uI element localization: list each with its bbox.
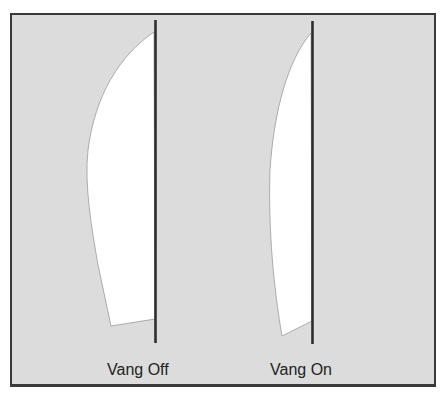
sail-diagram [0, 0, 446, 395]
sail-vang-on [270, 33, 312, 336]
label-vang-off: Vang Off [107, 361, 169, 379]
sail-vang-off [87, 32, 155, 326]
label-vang-on: Vang On [270, 361, 332, 379]
